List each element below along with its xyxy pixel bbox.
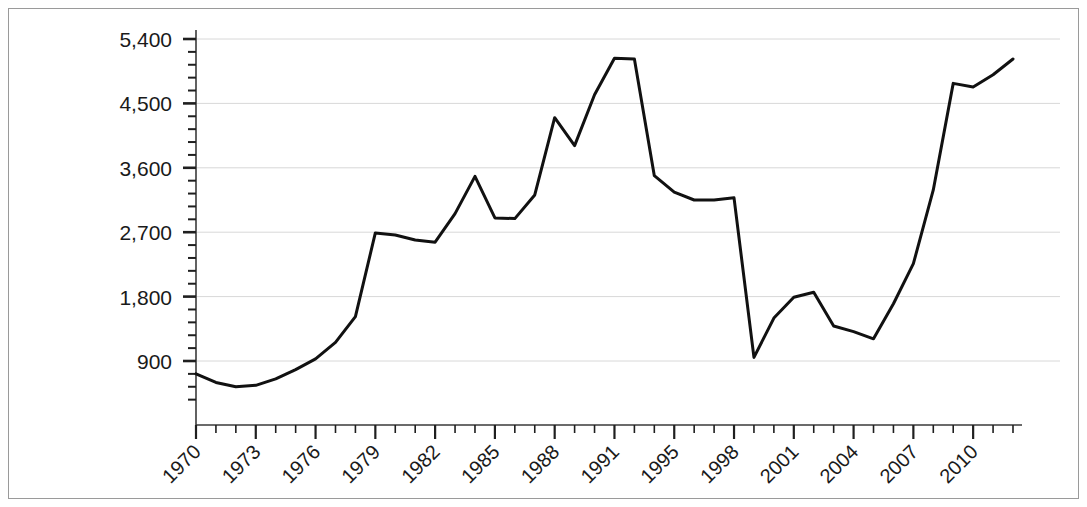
y-axis-group xyxy=(183,30,196,425)
y-tick-label-5400: 5,400 xyxy=(119,28,172,51)
x-axis-group xyxy=(196,425,1022,439)
x-tick-label-1991: 1991 xyxy=(576,440,623,487)
chart-figure: 9001,8002,7003,6004,5005,400 19701973197… xyxy=(0,0,1087,507)
x-tick-label-1979: 1979 xyxy=(337,440,384,487)
y-tick-label-4500: 4,500 xyxy=(119,92,172,115)
x-tick-label-1976: 1976 xyxy=(277,440,324,487)
line-chart-plot: 9001,8002,7003,6004,5005,400 19701973197… xyxy=(0,0,1087,507)
data-series-line xyxy=(196,58,1013,386)
x-tick-label-1998: 1998 xyxy=(696,440,743,487)
y-tick-label-900: 900 xyxy=(137,350,172,373)
x-tick-label-2001: 2001 xyxy=(756,440,803,487)
x-tick-label-1985: 1985 xyxy=(457,440,504,487)
x-tick-label-1988: 1988 xyxy=(516,440,563,487)
x-tick-label-2007: 2007 xyxy=(875,440,922,487)
x-tick-label-1973: 1973 xyxy=(218,440,265,487)
x-tick-label-1995: 1995 xyxy=(636,440,683,487)
x-tick-label-2004: 2004 xyxy=(815,440,862,487)
data-line-group xyxy=(196,58,1013,386)
y-tick-labels-group: 9001,8002,7003,6004,5005,400 xyxy=(119,28,172,373)
x-tick-label-1970: 1970 xyxy=(158,440,205,487)
x-tick-label-2010: 2010 xyxy=(935,440,982,487)
x-tick-labels-group: 1970197319761979198219851988199119951998… xyxy=(158,440,982,487)
x-tick-label-1982: 1982 xyxy=(397,440,444,487)
y-tick-label-1800: 1,800 xyxy=(119,286,172,309)
y-tick-label-2700: 2,700 xyxy=(119,221,172,244)
y-tick-label-3600: 3,600 xyxy=(119,157,172,180)
